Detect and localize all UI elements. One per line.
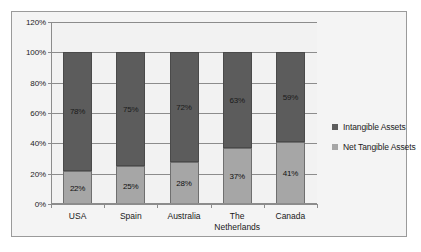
bar-segment-net-tangible-assets[interactable]: 28% <box>170 162 199 204</box>
y-tick-mark <box>48 52 51 53</box>
bar-value-label: 37% <box>224 172 251 181</box>
x-tick-mark <box>211 204 212 208</box>
gridline-0pct <box>51 204 317 205</box>
bar-segment-net-tangible-assets[interactable]: 22% <box>63 171 92 204</box>
bar-value-label: 72% <box>171 102 198 111</box>
legend-swatch-icon <box>332 144 338 150</box>
y-tick-mark <box>48 83 51 84</box>
x-axis-category-label: USA <box>69 211 86 222</box>
x-tick-mark <box>264 204 265 208</box>
legend-swatch-icon <box>332 124 338 130</box>
legend-item-label: Intangible Assets <box>343 122 406 132</box>
x-axis-category-label: Canada <box>276 211 306 222</box>
bar-segment-intangible-assets[interactable]: 75% <box>116 52 145 166</box>
bar-value-label: 22% <box>64 183 91 192</box>
x-axis-line <box>51 203 317 204</box>
x-tick-mark <box>157 204 158 208</box>
bar-segment-net-tangible-assets[interactable]: 37% <box>223 148 252 204</box>
bar-segment-intangible-assets[interactable]: 78% <box>63 52 92 170</box>
y-tick-mark <box>48 174 51 175</box>
y-axis-tick-label: 80% <box>30 78 46 87</box>
bar-value-label: 41% <box>277 169 304 178</box>
bar-value-label: 63% <box>224 96 251 105</box>
plot-area: 0%20%40%60%80%100%120% 22%78%25%75%28%72… <box>51 22 317 204</box>
legend-item[interactable]: Intangible Assets <box>332 122 416 132</box>
chart-frame: 0%20%40%60%80%100%120% 22%78%25%75%28%72… <box>11 11 407 237</box>
x-axis-category-label: The Netherlands <box>214 211 260 233</box>
y-axis-tick-label: 20% <box>30 169 46 178</box>
y-tick-mark <box>48 113 51 114</box>
chart-legend: Intangible AssetsNet Tangible Assets <box>332 122 416 162</box>
y-axis-tick-label: 40% <box>30 139 46 148</box>
bar-value-label: 59% <box>277 93 304 102</box>
x-tick-mark <box>51 204 52 208</box>
gridline-120pct <box>51 22 317 23</box>
bar-value-label: 28% <box>171 179 198 188</box>
bar-value-label: 78% <box>64 107 91 116</box>
bar-segment-intangible-assets[interactable]: 72% <box>170 52 199 161</box>
y-tick-mark <box>48 22 51 23</box>
bar-segment-net-tangible-assets[interactable]: 41% <box>276 142 305 204</box>
bar-segment-intangible-assets[interactable]: 63% <box>223 52 252 148</box>
x-tick-mark <box>317 204 318 208</box>
legend-item[interactable]: Net Tangible Assets <box>332 142 416 152</box>
bar-segment-intangible-assets[interactable]: 59% <box>276 52 305 141</box>
x-axis-category-label: Spain <box>120 211 142 222</box>
y-axis-tick-label: 100% <box>26 48 46 57</box>
chart-screenshot: 0%20%40%60%80%100%120% 22%78%25%75%28%72… <box>0 0 421 252</box>
x-tick-mark <box>104 204 105 208</box>
y-axis-tick-label: 0% <box>35 200 46 209</box>
y-axis-tick-label: 60% <box>30 109 46 118</box>
legend-item-label: Net Tangible Assets <box>343 142 416 152</box>
x-axis-category-label: Australia <box>167 211 200 222</box>
bar-value-label: 75% <box>117 105 144 114</box>
y-tick-mark <box>48 143 51 144</box>
bar-segment-net-tangible-assets[interactable]: 25% <box>116 166 145 204</box>
bar-value-label: 25% <box>117 181 144 190</box>
y-axis-tick-label: 120% <box>26 18 46 27</box>
